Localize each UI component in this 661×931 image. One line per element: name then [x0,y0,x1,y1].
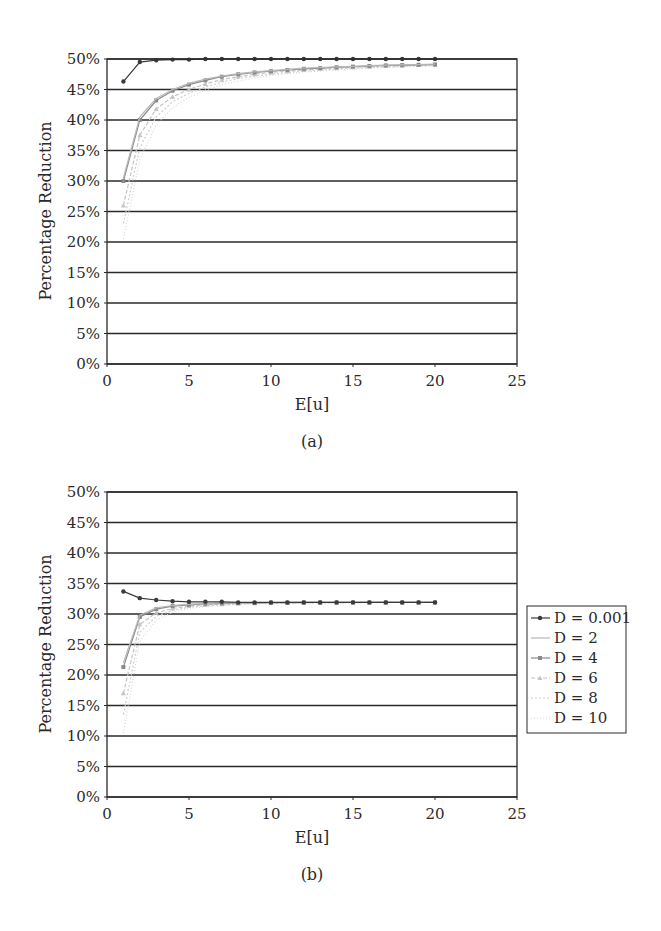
series-d-0.001 [121,589,437,604]
series-point-marker [138,60,142,64]
series-point-marker [203,600,207,604]
chart-a: 0%5%10%15%20%25%30%35%40%45%50% 05101520… [36,50,527,451]
series-point-marker [416,600,420,604]
y-tick-label: 40% [67,111,100,129]
y-tick-label: 10% [67,294,100,312]
y-tick-label: 20% [67,666,100,684]
x-axis-label-a: E[u] [295,395,329,414]
x-tick-label: 5 [184,372,194,390]
legend-label: D = 6 [554,669,598,687]
x-tick-label: 0 [102,372,112,390]
chart-b: 0%5%10%15%20%25%30%35%40%45%50% 05101520… [36,483,527,884]
series-line [123,602,435,714]
y-tick-label: 15% [67,697,100,715]
series-point-marker [170,94,175,99]
series-d-4 [121,600,437,669]
x-tick-label: 0 [102,805,112,823]
x-axis-label-b: E[u] [295,828,329,847]
y-tick-label: 35% [67,575,100,593]
legend-label: D = 10 [554,709,607,727]
series-point-marker [269,600,273,604]
series-point-marker [318,600,322,604]
legend-label: D = 2 [554,629,598,647]
y-tick-label: 5% [76,758,100,776]
y-tick-label: 40% [67,544,100,562]
y-axis-label-b: Percentage Reduction [36,554,55,733]
panel-label-b: (b) [301,865,324,884]
series-point-marker [367,600,371,604]
series-point-marker [351,600,355,604]
x-tick-label: 20 [425,805,444,823]
legend-label: D = 8 [554,689,598,707]
legend-label: D = 0.001 [554,609,631,627]
y-tick-label: 30% [67,172,100,190]
y-axis-ticks-a: 0%5%10%15%20%25%30%35%40%45%50% [67,50,107,373]
y-tick-label: 20% [67,233,100,251]
y-tick-label: 0% [76,788,100,806]
y-tick-label: 50% [67,483,100,501]
series-point-marker [121,179,125,183]
series-point-marker [187,600,191,604]
series-point-marker [220,600,224,604]
y-tick-label: 50% [67,50,100,68]
y-axis-ticks-b: 0%5%10%15%20%25%30%35%40%45%50% [67,483,107,806]
series-line [123,65,435,182]
y-tick-label: 0% [76,355,100,373]
x-axis-ticks-b: 0510152025 [102,797,526,823]
x-tick-label: 20 [425,372,444,390]
series-point-marker [433,600,437,604]
series-point-marker [121,665,125,669]
x-axis-ticks-a: 0510152025 [102,364,526,390]
y-tick-label: 25% [67,203,100,221]
series-b [121,589,438,733]
series-line [123,602,435,733]
series-point-marker [121,589,125,593]
series-point-marker [252,600,256,604]
x-tick-label: 10 [261,805,280,823]
series-point-marker [285,600,289,604]
x-tick-label: 5 [184,805,194,823]
series-line [123,602,435,667]
y-tick-label: 25% [67,636,100,654]
series-point-marker [400,600,404,604]
series-d-8 [123,602,435,714]
series-d-4 [121,62,437,183]
series-line [123,65,435,206]
series-point-marker [138,596,142,600]
legend-marker [538,616,542,620]
x-tick-label: 25 [507,372,526,390]
y-tick-label: 30% [67,605,100,623]
series-line [123,591,435,602]
series-point-marker [334,600,338,604]
series-point-marker [170,599,174,603]
panel-label-a: (a) [301,432,323,451]
legend-label: D = 4 [554,649,598,667]
x-tick-label: 25 [507,805,526,823]
series-line [123,602,435,693]
series-point-marker [154,598,158,602]
y-tick-label: 15% [67,264,100,282]
x-tick-label: 15 [343,805,362,823]
legend-marker [538,656,542,660]
series-point-marker [121,691,126,696]
figure: 0%5%10%15%20%25%30%35%40%45%50% 05101520… [0,0,661,931]
series-d-10 [123,602,435,733]
y-tick-label: 10% [67,727,100,745]
series-point-marker [236,600,240,604]
series-point-marker [302,600,306,604]
series-d-2 [123,64,435,178]
y-tick-label: 45% [67,81,100,99]
series-line [123,64,435,178]
y-tick-label: 5% [76,325,100,343]
series-point-marker [384,600,388,604]
legend: D = 0.001D = 2D = 4D = 6D = 8D = 10 [527,606,631,733]
x-tick-label: 15 [343,372,362,390]
y-tick-label: 35% [67,142,100,160]
y-tick-label: 45% [67,514,100,532]
x-tick-label: 10 [261,372,280,390]
gridlines-b [107,492,517,797]
series-d-6 [121,62,438,207]
series-point-marker [121,203,126,208]
y-axis-label-a: Percentage Reduction [36,121,55,300]
series-point-marker [121,79,125,83]
